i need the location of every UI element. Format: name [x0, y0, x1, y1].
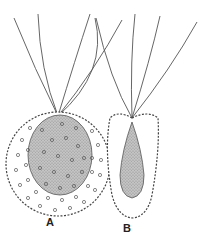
figure-canvas	[0, 0, 206, 241]
panel-label-a: A	[46, 216, 54, 228]
panel-label-b: B	[123, 222, 131, 234]
cell-a-nucleus	[28, 115, 92, 195]
cell-b	[107, 114, 158, 218]
cell-b-flagella	[96, 14, 197, 118]
cell-a	[6, 112, 110, 216]
cell-a-flagella	[14, 14, 122, 116]
